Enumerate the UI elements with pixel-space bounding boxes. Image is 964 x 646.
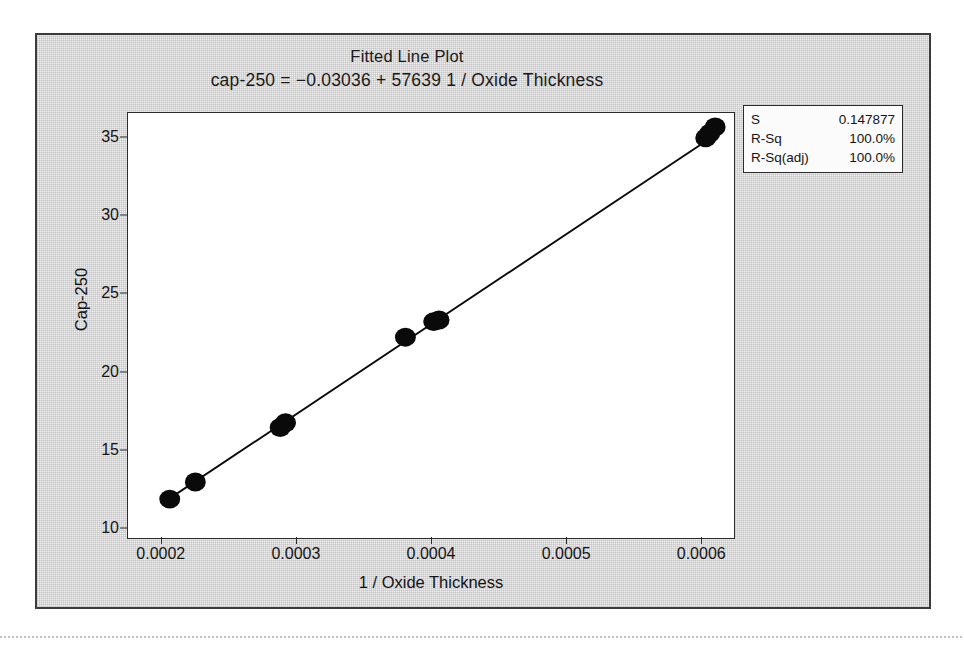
plot-canvas (128, 113, 734, 538)
stat-label-rsq-adj: R-Sq(adj) (751, 148, 809, 167)
y-tick-mark (120, 293, 127, 294)
x-tick-label: 0.0004 (407, 545, 456, 563)
y-tick-label: 25 (101, 284, 119, 302)
data-point-marker (275, 413, 296, 432)
x-tick-label: 0.0002 (136, 545, 185, 563)
data-point-marker (185, 472, 206, 491)
stat-value-s: 0.147877 (839, 110, 895, 129)
x-tick-mark (296, 537, 297, 544)
plot-area (127, 112, 735, 539)
y-tick-mark (120, 215, 127, 216)
y-tick-mark (120, 371, 127, 372)
x-tick-mark (701, 537, 702, 544)
y-axis-label: Cap-250 (72, 240, 91, 360)
x-tick-mark (566, 537, 567, 544)
data-point-marker (395, 328, 416, 347)
stat-row-rsq-adj: R-Sq(adj) 100.0% (751, 148, 895, 167)
stat-row-s: S 0.147877 (751, 110, 895, 129)
y-tick-label: 20 (101, 363, 119, 381)
stat-label-rsq: R-Sq (751, 129, 782, 148)
y-tick-mark (120, 449, 127, 450)
scanner-artifact-line (0, 636, 964, 638)
stat-label-s: S (751, 110, 760, 129)
x-tick-mark (161, 537, 162, 544)
y-tick-mark (120, 528, 127, 529)
y-tick-mark (120, 137, 127, 138)
x-axis-ticks: 0.00020.00030.00040.00050.0006 (127, 545, 735, 571)
figure-frame: Fitted Line Plot cap-250 = −0.03036 + 57… (35, 33, 931, 609)
scanned-page: Fitted Line Plot cap-250 = −0.03036 + 57… (0, 0, 964, 646)
data-point-marker (159, 490, 180, 509)
stat-value-rsq-adj: 100.0% (849, 148, 895, 167)
x-tick-label: 0.0003 (271, 545, 320, 563)
x-axis-label: 1 / Oxide Thickness (127, 573, 735, 592)
data-point-marker (429, 311, 450, 330)
x-tick-label: 0.0005 (542, 545, 591, 563)
x-tick-label: 0.0006 (677, 545, 726, 563)
y-tick-label: 35 (101, 128, 119, 146)
x-tick-mark (431, 537, 432, 544)
regression-equation: cap-250 = −0.03036 + 57639 1 / Oxide Thi… (37, 67, 777, 93)
y-tick-label: 30 (101, 206, 119, 224)
stat-row-rsq: R-Sq 100.0% (751, 129, 895, 148)
y-tick-label: 10 (101, 519, 119, 537)
stat-value-rsq: 100.0% (849, 129, 895, 148)
page-title: Fitted Line Plot (37, 45, 777, 67)
y-tick-label: 15 (101, 441, 119, 459)
data-point-marker (705, 118, 726, 137)
statistics-box: S 0.147877 R-Sq 100.0% R-Sq(adj) 100.0% (743, 105, 903, 173)
title-block: Fitted Line Plot cap-250 = −0.03036 + 57… (37, 45, 777, 93)
